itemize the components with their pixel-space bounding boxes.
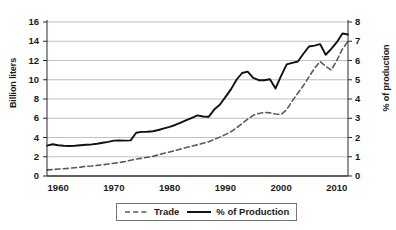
plot-area [0,0,396,230]
y-tick-label-right: 2 [355,132,377,143]
y-tick-label-right: 7 [355,35,377,46]
y-tick-label-right: 4 [355,93,377,104]
y-tick-label-left: 14 [19,35,39,46]
y-tick-label-left: 10 [19,74,39,85]
x-tick-label: 1960 [38,182,78,193]
y-tick-label-left: 12 [19,55,39,66]
y-tick-label-right: 6 [355,55,377,66]
x-tick-label: 2000 [261,182,301,193]
x-tick-label: 1990 [205,182,245,193]
y-tick-label-right: 8 [355,16,377,27]
legend-label: Trade [154,206,179,217]
x-tick-label: 2010 [317,182,357,193]
y-tick-label-right: 0 [355,170,377,181]
x-tick-label: 1980 [150,182,190,193]
y-tick-label-left: 2 [19,151,39,162]
axis-lines [43,20,352,176]
series-line-1 [47,34,348,146]
legend-swatch-solid [186,208,212,216]
x-tick-label: 1970 [94,182,134,193]
series-layer [47,34,348,170]
y-tick-label-left: 6 [19,112,39,123]
gridlines [47,22,348,176]
legend-item: % of Production [186,206,289,217]
legend-swatch-dashed [124,208,150,216]
y-tick-label-right: 3 [355,112,377,123]
y-tick-label-right: 5 [355,74,377,85]
legend-label: % of Production [216,206,289,217]
y-tick-label-left: 0 [19,170,39,181]
legend-item: Trade [124,206,179,217]
chart-container: Billion liters % of production 024681012… [0,0,396,230]
y-tick-label-left: 4 [19,132,39,143]
chart-legend: Trade% of Production [116,203,297,221]
y-tick-label-left: 16 [19,16,39,27]
y-tick-label-right: 1 [355,151,377,162]
y-tick-label-left: 8 [19,93,39,104]
